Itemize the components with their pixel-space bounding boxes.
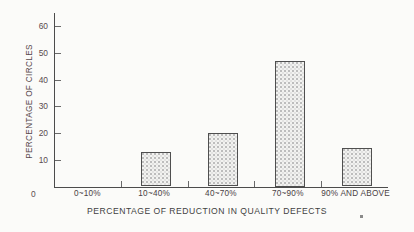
x-tick-label-1: 0~10%: [54, 189, 121, 198]
y-tick-label-30: 30: [26, 101, 48, 111]
y-tick-label-50: 50: [26, 48, 48, 58]
bar-2: [141, 152, 171, 187]
x-tick-label-3: 40~70%: [188, 189, 255, 198]
y-axis-line: [54, 13, 55, 188]
y-tick-20: [55, 133, 61, 134]
x-separator-2: [188, 181, 189, 187]
bar-3: [208, 133, 238, 186]
y-tick-60: [55, 26, 61, 27]
bar-5: [342, 148, 372, 187]
x-axis-line: [54, 187, 388, 188]
x-separator-1: [121, 181, 122, 187]
y-tick-label-20: 20: [26, 128, 48, 138]
y-tick-label-40: 40: [26, 75, 48, 85]
y-tick-label-60: 60: [26, 21, 48, 31]
x-tick-label-4: 70~90%: [254, 189, 321, 198]
x-tick-label-5: 90% AND ABOVE: [321, 189, 388, 198]
y-tick-10: [55, 160, 61, 161]
histogram-figure: PERCENTAGE OF CIRCLES 102030405060 0~10%…: [0, 0, 414, 232]
y-tick-label-10: 10: [26, 155, 48, 165]
origin-label: 0: [31, 189, 36, 199]
y-tick-30: [55, 106, 61, 107]
x-separator-4: [321, 181, 322, 187]
x-axis-title: PERCENTAGE OF REDUCTION IN QUALITY DEFEC…: [0, 206, 414, 216]
bar-4: [275, 61, 305, 187]
y-tick-50: [55, 53, 61, 54]
y-tick-40: [55, 80, 61, 81]
page-artifact-mark: [360, 215, 363, 218]
x-separator-3: [254, 181, 255, 187]
x-tick-label-2: 10~40%: [121, 189, 188, 198]
